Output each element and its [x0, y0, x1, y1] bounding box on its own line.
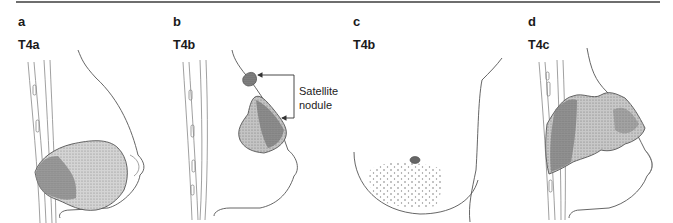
- breast-frontal-illustration: [340, 0, 510, 223]
- panel-c: c T4b: [340, 0, 510, 223]
- breast-sagittal-illustration: [505, 0, 673, 223]
- breast-sagittal-illustration: [0, 0, 170, 223]
- satellite-nodule-label: Satellite nodule: [299, 84, 338, 112]
- nipple: [410, 157, 420, 164]
- annotation-line: Satellite: [299, 84, 338, 98]
- satellite-nodule: [243, 72, 257, 86]
- annotation-line: nodule: [299, 98, 338, 112]
- peau-dorange-area: [369, 162, 441, 207]
- panel-a: a T4a: [0, 0, 170, 223]
- chest-wall: [28, 60, 56, 223]
- panel-b: b T4b: [170, 0, 340, 223]
- panel-d: d T4c: [505, 0, 673, 223]
- chest-wall: [183, 60, 207, 220]
